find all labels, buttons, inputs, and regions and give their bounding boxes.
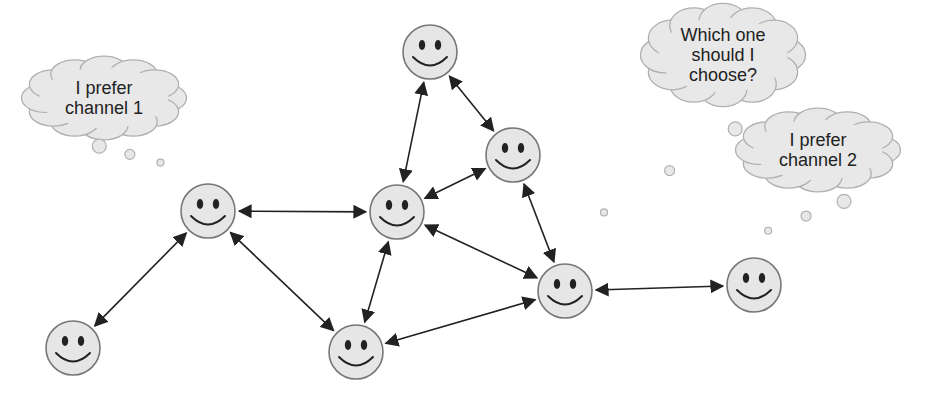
edge-n_center-n_right — [425, 225, 537, 278]
smiley-face-icon — [727, 258, 781, 312]
thought-bubble: I preferchannel 1 — [22, 56, 187, 166]
eye-icon — [743, 273, 749, 283]
edge-n_bottom_center-n_right — [386, 300, 535, 344]
eye-icon — [554, 279, 560, 289]
bubble-text-line: channel 2 — [779, 150, 857, 170]
smiley-node-n_top — [403, 25, 457, 79]
bubble-tail-dot — [601, 209, 608, 216]
eye-icon — [419, 40, 425, 50]
eye-icon — [62, 336, 68, 346]
bubble-text-line: I prefer — [75, 78, 132, 98]
eye-icon — [435, 40, 441, 50]
smiley-face-icon — [538, 264, 592, 318]
eye-icon — [78, 336, 84, 346]
bubble-text-line: channel 1 — [65, 98, 143, 118]
smiley-face-icon — [403, 25, 457, 79]
edge-n_left-n_center — [239, 211, 366, 212]
eye-icon — [213, 199, 219, 209]
bubble-tail-dot — [837, 194, 851, 208]
bubble-text-line: Which one — [680, 25, 765, 45]
eye-icon — [570, 279, 576, 289]
eye-icon — [402, 200, 408, 210]
edge-n_right-n_far_right — [596, 286, 723, 290]
smiley-face-icon — [329, 325, 383, 379]
thought-bubble: I preferchannel 2 — [736, 108, 901, 234]
eye-icon — [759, 273, 765, 283]
network-diagram: I preferchannel 1Which oneshould Ichoose… — [0, 0, 930, 401]
bubble-tail-dot — [125, 149, 135, 159]
eye-icon — [386, 200, 392, 210]
smiley-node-n_bottom_left — [46, 321, 100, 375]
eye-icon — [197, 199, 203, 209]
smiley-node-n_far_right — [727, 258, 781, 312]
diagram-svg: I preferchannel 1Which oneshould Ichoose… — [0, 0, 930, 401]
eye-icon — [502, 143, 508, 153]
bubble-text-line: should I — [691, 45, 754, 65]
edge-n_center-n_bottom_center — [365, 242, 389, 322]
edge-n_top-n_upper_right — [449, 76, 493, 131]
edge-n_left-n_bottom_center — [230, 232, 333, 330]
bubble-tail-dot — [728, 122, 742, 136]
thought-bubbles-layer: I preferchannel 1Which oneshould Ichoose… — [22, 3, 901, 234]
eye-icon — [361, 340, 367, 350]
bubble-tail-dot — [765, 227, 772, 234]
smiley-node-n_left — [181, 184, 235, 238]
bubble-text-line: choose? — [689, 65, 757, 85]
bubble-tail-dot — [801, 211, 811, 221]
bubble-tail-dot — [157, 159, 164, 166]
edge-n_upper_right-n_right — [524, 184, 554, 262]
smiley-node-n_bottom_center — [329, 325, 383, 379]
edge-n_center-n_top — [403, 82, 423, 181]
edge-n_left-n_bottom_left — [95, 233, 186, 326]
edge-n_center-n_upper_right — [425, 169, 485, 199]
bubble-tail-dot — [665, 166, 675, 176]
bubble-tail-dot — [92, 139, 106, 153]
smiley-face-icon — [370, 185, 424, 239]
bubble-text-line: I prefer — [789, 130, 846, 150]
eye-icon — [345, 340, 351, 350]
smiley-face-icon — [46, 321, 100, 375]
eye-icon — [518, 143, 524, 153]
smiley-node-n_upper_right — [486, 128, 540, 182]
smiley-face-icon — [486, 128, 540, 182]
smiley-face-icon — [181, 184, 235, 238]
smiley-node-n_right — [538, 264, 592, 318]
smiley-node-n_center — [370, 185, 424, 239]
